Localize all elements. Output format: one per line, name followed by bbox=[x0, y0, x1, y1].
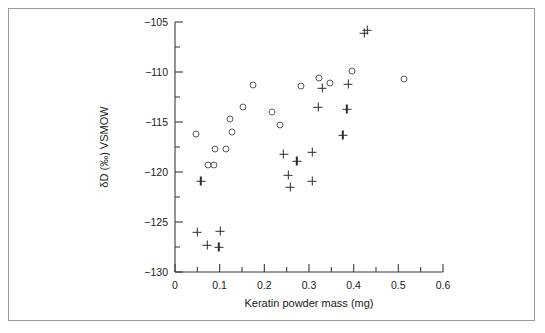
y-tick-label: −110 bbox=[128, 67, 168, 78]
data-point-circle bbox=[193, 131, 200, 138]
data-point-circle bbox=[298, 83, 305, 90]
x-tick-label: 0.2 bbox=[257, 280, 272, 291]
data-point-circle bbox=[212, 146, 219, 153]
data-point-circle bbox=[348, 68, 355, 75]
data-point-plus bbox=[292, 157, 301, 166]
x-tick-label: 0.5 bbox=[391, 280, 406, 291]
data-point-plus bbox=[344, 80, 353, 89]
x-tick-label: 0.4 bbox=[346, 280, 361, 291]
data-point-plus bbox=[284, 171, 293, 180]
y-tick-label: −105 bbox=[128, 17, 168, 28]
data-point-circle bbox=[327, 80, 334, 87]
data-point-circle bbox=[315, 75, 322, 82]
y-tick-label: −120 bbox=[128, 167, 168, 178]
data-point-circle bbox=[269, 109, 276, 116]
x-tick-label: 0 bbox=[172, 280, 178, 291]
data-point-circle bbox=[239, 104, 246, 111]
data-point-plus bbox=[214, 243, 223, 252]
data-point-plus bbox=[203, 241, 212, 250]
data-point-circle bbox=[222, 146, 229, 153]
data-point-plus bbox=[338, 131, 347, 140]
data-point-plus bbox=[193, 228, 202, 237]
data-point-plus bbox=[279, 150, 288, 159]
data-point-plus bbox=[216, 227, 225, 236]
data-point-plus bbox=[308, 177, 317, 186]
data-point-circle bbox=[228, 129, 235, 136]
x-tick-label: 0.3 bbox=[302, 280, 317, 291]
y-tick-label: −125 bbox=[128, 217, 168, 228]
data-point-plus bbox=[196, 177, 205, 186]
plot-data-area bbox=[175, 22, 443, 272]
data-point-plus bbox=[286, 183, 295, 192]
data-point-plus bbox=[318, 84, 327, 93]
x-tick-label: 0.1 bbox=[212, 280, 227, 291]
data-point-plus bbox=[308, 148, 317, 157]
y-tick-label: −130 bbox=[128, 267, 168, 278]
x-axis-title: Keratin powder mass (mg) bbox=[245, 297, 374, 309]
x-tick-label: 0.6 bbox=[436, 280, 451, 291]
data-point-circle bbox=[277, 122, 284, 129]
y-tick-label: −115 bbox=[128, 117, 168, 128]
data-point-circle bbox=[226, 116, 233, 123]
data-point-plus bbox=[342, 105, 351, 114]
y-axis-title: δD (‰) VSMOW bbox=[98, 106, 110, 187]
figure-container: −130−125−120−115−110−105 00.10.20.30.40.… bbox=[0, 0, 545, 333]
data-point-circle bbox=[211, 162, 218, 169]
data-point-circle bbox=[250, 82, 257, 89]
data-point-circle bbox=[401, 76, 408, 83]
data-point-plus bbox=[314, 103, 323, 112]
data-point-plus bbox=[363, 26, 372, 35]
